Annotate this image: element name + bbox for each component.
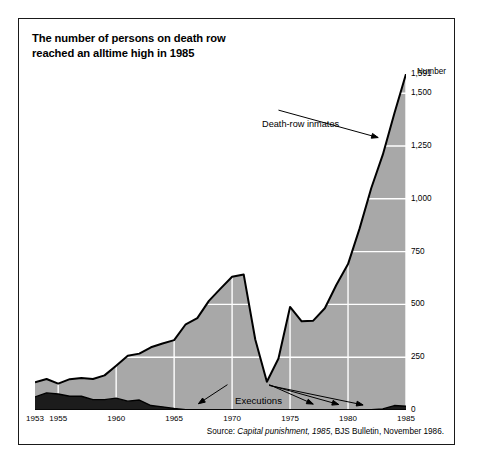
x-tick-label: 1975 — [281, 414, 299, 423]
chart-svg — [35, 74, 406, 410]
chart-title: The number of persons on death row reach… — [32, 31, 362, 60]
annotation-executions: Executions — [235, 395, 282, 406]
source-publication-title: Capital punishment, 1985 — [237, 427, 330, 436]
plot-area — [35, 74, 406, 410]
y-tick-label: 0 — [411, 405, 416, 414]
y-tick-label: 250 — [411, 352, 425, 361]
source-note: Source: Capital punishment, 1985, BJS Bu… — [207, 427, 444, 436]
chart-title-line-2: reached an alltime high in 1985 — [32, 46, 362, 61]
x-tick-label: 1965 — [165, 414, 183, 423]
y-tick-label: 500 — [411, 299, 425, 308]
x-tick-label: 1970 — [223, 414, 241, 423]
area-inmates — [35, 74, 406, 410]
x-tick-label: 1985 — [397, 414, 415, 423]
annotation-death-row-inmates: Death-row inmates — [262, 119, 339, 129]
chart-figure: The number of persons on death row reach… — [18, 18, 455, 445]
source-prefix: Source: — [207, 427, 238, 436]
y-tick-label: 1,500 — [411, 88, 432, 97]
x-tick-label: 1960 — [107, 414, 125, 423]
x-tick-label: 1980 — [339, 414, 357, 423]
x-tick-label: 1953 — [26, 414, 44, 423]
y-tick-label: 1,000 — [411, 194, 432, 203]
chart-title-line-1: The number of persons on death row — [32, 31, 362, 46]
y-tick-label: 750 — [411, 247, 425, 256]
y-tick-label: 1,591 — [411, 69, 432, 78]
y-tick-label: 1,250 — [411, 141, 432, 150]
source-suffix: , BJS Bulletin, November 1986. — [330, 427, 444, 436]
x-tick-label: 1955 — [49, 414, 67, 423]
